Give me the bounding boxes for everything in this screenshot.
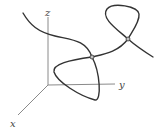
y-axis [48,84,115,85]
crossing-point-2 [126,37,130,41]
y-axis-label: y [118,79,125,90]
axes: z y x [10,7,125,129]
curve-upper-right-loop [105,5,139,39]
x-axis [18,85,48,115]
curve-middle-link [92,39,128,57]
curve-tail [128,39,153,57]
curve-lower-loop [54,57,99,100]
z-axis-label: z [44,7,51,18]
space-curve-diagram: z y x [0,0,163,132]
space-curve [23,5,153,100]
crossing-point-1 [90,55,94,59]
curve-upper-left-arc [23,13,92,57]
x-axis-label: x [10,118,16,129]
